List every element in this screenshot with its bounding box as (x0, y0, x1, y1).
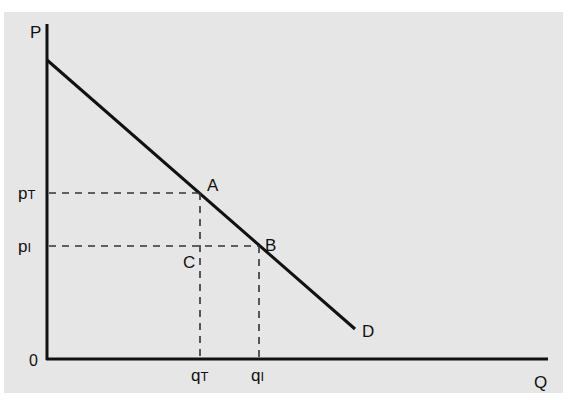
point-C-label: C (183, 253, 195, 272)
qT-main: q (191, 366, 200, 385)
demand-curve (47, 60, 355, 329)
pI-main: p (18, 237, 27, 256)
pT-main: p (18, 184, 27, 203)
pI-sub: I (27, 240, 31, 255)
pT-sub: T (27, 187, 35, 202)
pT-label: pT (18, 184, 35, 203)
curve-D-label: D (362, 322, 374, 341)
pI-label: pI (18, 237, 31, 256)
origin-label: 0 (29, 352, 38, 369)
qI-label: qI (251, 366, 264, 385)
y-axis-label: P (30, 23, 41, 42)
qT-sub: T (200, 369, 208, 384)
point-B-label: B (265, 236, 276, 255)
qI-sub: I (260, 369, 264, 384)
x-axis-label: Q (534, 373, 547, 392)
demand-diagram: P Q 0 pT pI qT qI A B C D (0, 0, 568, 400)
qI-main: q (251, 366, 260, 385)
qT-label: qT (191, 366, 208, 385)
point-A-label: A (207, 176, 219, 195)
